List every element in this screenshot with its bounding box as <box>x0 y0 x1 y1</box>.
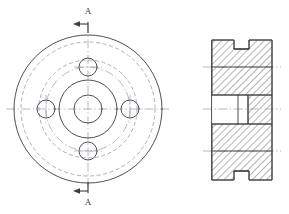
section-bore-small-profile <box>238 95 248 124</box>
section-material-lower <box>212 124 272 180</box>
section-arrow-head-top <box>73 21 80 26</box>
section-cut-marker-bottom: A <box>73 182 92 207</box>
section-label-top: A <box>85 6 92 16</box>
engineering-drawing-container: A A <box>0 0 289 214</box>
section-cut-marker-top: A <box>73 6 92 33</box>
section-bore-large-profile <box>212 95 238 124</box>
section-arrow-head-bottom <box>73 188 80 193</box>
front-view <box>6 24 170 194</box>
section-material-bore-right <box>248 95 272 124</box>
section-label-bottom: A <box>85 197 92 207</box>
section-material-upper <box>212 40 272 95</box>
drawing-canvas: A A <box>0 0 289 214</box>
section-view-a-a <box>203 40 281 180</box>
